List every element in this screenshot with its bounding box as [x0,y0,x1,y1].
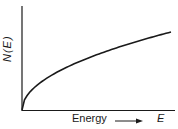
chart-canvas [0,0,178,129]
y-axis-label: N(E) [2,35,13,62]
x-axis-label: Energy [72,113,107,124]
x-axis-arrow-icon [115,119,143,124]
x-axis-variable: E [157,113,164,124]
n-of-e-curve [22,32,171,110]
